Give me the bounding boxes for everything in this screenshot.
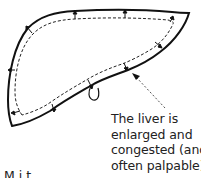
enlarged-liver-outline (8, 10, 189, 126)
caption: The liver is enlarged and congested (and… (111, 111, 201, 173)
pointer-arrow (132, 73, 165, 108)
caption-line-1: The liver is (111, 111, 201, 127)
cutoff-text: M i t (4, 168, 31, 178)
caption-line-3: congested (and (111, 142, 201, 158)
gallbladder (89, 86, 99, 100)
caption-line-2: enlarged and (111, 127, 201, 143)
caption-line-4: often palpable) (111, 158, 201, 174)
